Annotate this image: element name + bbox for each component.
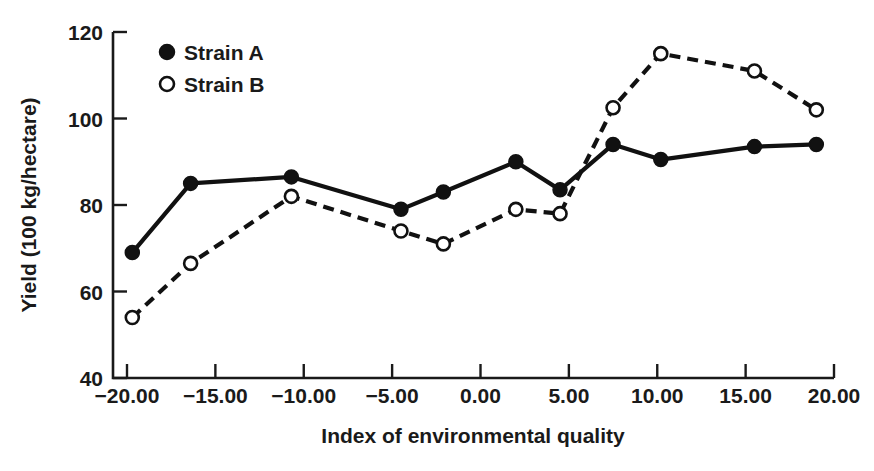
data-point-strain-a-7 — [606, 137, 620, 151]
chart-legend: Strain A Strain B — [160, 41, 265, 96]
data-point-strain-a-6 — [553, 183, 567, 197]
y-tick-label: 100 — [68, 108, 103, 131]
x-tick-label: −5.00 — [366, 384, 419, 407]
legend-label-strain-b: Strain B — [184, 73, 265, 96]
line-chart: 406080100120 −20.00−15.00−10.00−5.000.00… — [0, 0, 874, 471]
x-axis-title: Index of environmental quality — [321, 424, 625, 447]
y-tick-label: 120 — [68, 21, 103, 44]
x-tick-label: −10.00 — [271, 384, 336, 407]
data-point-strain-b-0 — [126, 311, 139, 324]
data-point-strain-b-3 — [394, 224, 407, 237]
x-axis-tick-labels: −20.00−15.00−10.00−5.000.005.0010.0015.0… — [95, 384, 861, 407]
legend-marker-strain-a — [160, 45, 175, 60]
y-axis-ticks — [113, 32, 127, 378]
data-point-strain-a-3 — [394, 202, 408, 216]
data-point-strain-a-5 — [509, 155, 523, 169]
x-tick-label: 0.00 — [460, 384, 501, 407]
y-tick-label: 60 — [80, 281, 103, 304]
legend-label-strain-a: Strain A — [184, 41, 264, 64]
x-tick-label: −20.00 — [95, 384, 160, 407]
y-tick-label: 80 — [80, 194, 103, 217]
data-point-strain-b-1 — [184, 257, 197, 270]
data-point-strain-a-2 — [284, 170, 298, 184]
data-point-strain-b-4 — [437, 237, 450, 250]
data-point-strain-a-9 — [747, 140, 761, 154]
data-point-strain-b-2 — [285, 190, 298, 203]
legend-marker-strain-b — [160, 77, 174, 91]
data-point-strain-b-9 — [748, 64, 761, 77]
x-tick-label: −15.00 — [183, 384, 248, 407]
series-markers-strain-a — [125, 137, 823, 259]
x-tick-label: 10.00 — [631, 384, 684, 407]
data-point-strain-a-4 — [436, 185, 450, 199]
x-tick-label: 15.00 — [719, 384, 772, 407]
data-point-strain-a-8 — [654, 153, 668, 167]
data-point-strain-a-1 — [184, 176, 198, 190]
data-point-strain-b-7 — [607, 101, 620, 114]
data-point-strain-b-10 — [810, 103, 823, 116]
y-axis-tick-labels: 406080100120 — [68, 21, 103, 390]
data-point-strain-a-10 — [809, 137, 823, 151]
data-point-strain-b-5 — [509, 203, 522, 216]
chart-figure: 406080100120 −20.00−15.00−10.00−5.000.00… — [0, 0, 874, 471]
data-point-strain-a-0 — [125, 246, 139, 260]
x-axis-ticks — [127, 364, 834, 378]
x-tick-label: 20.00 — [808, 384, 861, 407]
data-point-strain-b-6 — [554, 207, 567, 220]
y-axis-title: Yield (100 kg/hectare) — [17, 97, 40, 312]
x-tick-label: 5.00 — [548, 384, 589, 407]
data-point-strain-b-8 — [654, 47, 667, 60]
